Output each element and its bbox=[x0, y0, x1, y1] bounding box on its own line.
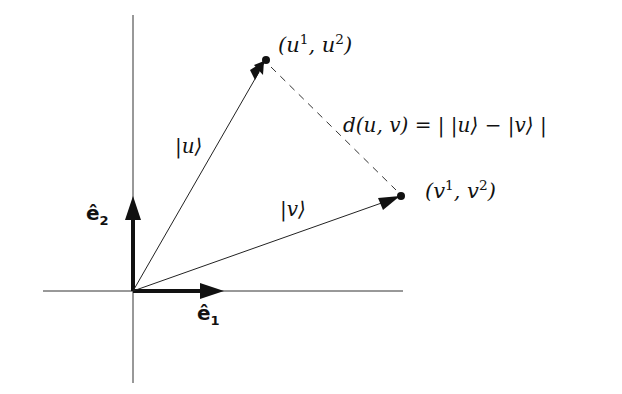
basis-e1-arrow bbox=[133, 283, 224, 299]
vector-u-label: |u⟩ bbox=[175, 134, 202, 158]
vector-diagram-canvas bbox=[0, 0, 622, 394]
distance-formula-label: d(u, v) = | |u⟩ − |v⟩ | bbox=[343, 113, 547, 137]
vector-u-arrow bbox=[133, 56, 270, 291]
point-u-label: (u1, u2) bbox=[278, 31, 352, 57]
e1-label: ê1 bbox=[197, 301, 220, 328]
vector-v-arrow bbox=[133, 192, 405, 291]
vector-v-label: |v⟩ bbox=[280, 197, 306, 221]
e2-label: ê2 bbox=[86, 201, 109, 228]
basis-e2-arrow bbox=[125, 196, 141, 291]
point-v-label: (v1, v2) bbox=[425, 177, 496, 203]
